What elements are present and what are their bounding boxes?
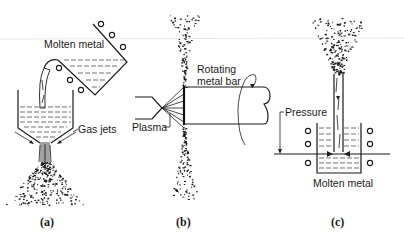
caption-b: (b): [176, 215, 191, 229]
label-molten-metal-a: Molten metal: [44, 38, 104, 50]
caption-c: (c): [331, 215, 344, 229]
label-gas-jets: Gas jets: [78, 123, 117, 135]
label-molten-metal-c: Molten metal: [313, 177, 373, 189]
pour-stream: [40, 68, 51, 108]
delivery-tube: [334, 74, 343, 152]
metal-powder-spray: [39, 142, 51, 163]
panel-c-pressure-atomization: Pressure Molten metal (c): [274, 18, 390, 229]
panel-b-rotating-electrode: Rotating metal bar Plasma (b): [132, 15, 270, 229]
powder-particles: [6, 162, 84, 206]
panel-a-gas-atomization: Molten metal Gas jets (a): [6, 21, 127, 229]
metal-droplet-fountain: [313, 18, 363, 75]
rotating-metal-bar: [184, 86, 270, 125]
powder-atomization-figure: Molten metal Gas jets (a) Rotating metal…: [0, 0, 404, 243]
label-rotating-line2: metal bar: [197, 75, 241, 87]
tundish: [18, 90, 73, 143]
ladle-heating-coils: [56, 21, 125, 92]
caption-a: (a): [40, 215, 54, 229]
pressure-indicator: [278, 112, 284, 154]
label-rotating-line1: Rotating: [197, 63, 236, 75]
label-pressure: Pressure: [285, 106, 327, 118]
label-plasma: Plasma: [132, 121, 167, 133]
